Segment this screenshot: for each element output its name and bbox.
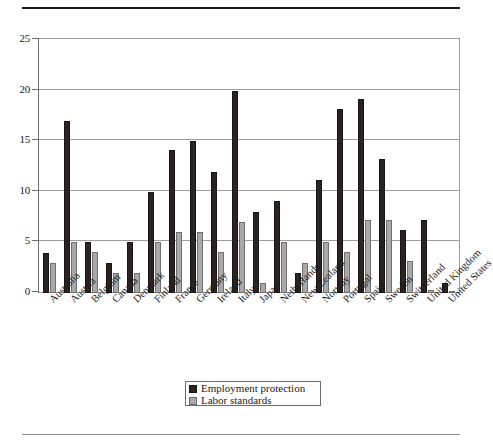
legend-swatch-employment-protection bbox=[189, 385, 197, 393]
y-tick-20 bbox=[32, 89, 39, 90]
legend-label-labor-standards: Labor standards bbox=[201, 395, 272, 406]
y-tick-0 bbox=[32, 291, 39, 292]
legend-item-labor-standards: Labor standards bbox=[189, 395, 317, 406]
bottom-horizontal-rule bbox=[22, 434, 460, 435]
legend-swatch-labor-standards bbox=[189, 397, 197, 405]
legend-label-employment-protection: Employment protection bbox=[201, 383, 305, 394]
y-tick-15 bbox=[32, 139, 39, 140]
x-axis-label-japan: Japan bbox=[257, 280, 282, 305]
y-tick-5 bbox=[32, 240, 39, 241]
chart-legend: Employment protection Labor standards bbox=[185, 381, 321, 406]
y-tick-25 bbox=[32, 38, 39, 39]
y-tick-10 bbox=[32, 190, 39, 191]
legend-item-employment-protection: Employment protection bbox=[189, 383, 317, 394]
